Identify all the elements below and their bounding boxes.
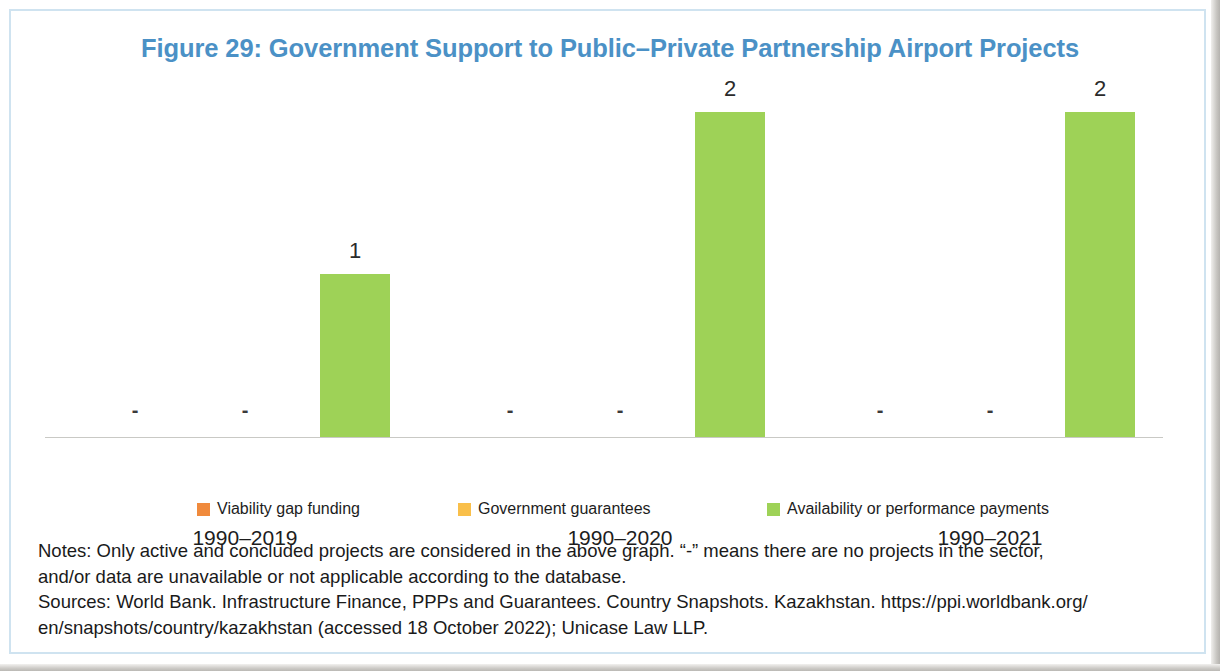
legend-label: Government guarantees xyxy=(478,500,651,518)
no-data-marker: - xyxy=(617,400,624,420)
legend-swatch-icon xyxy=(767,503,780,516)
notes-line-1: Notes: Only active and concluded project… xyxy=(38,538,1178,564)
bar-value-label: 2 xyxy=(724,78,736,100)
legend-swatch-icon xyxy=(197,503,210,516)
bar xyxy=(1065,112,1135,438)
bar-slot-availability-or-performance-payments: 2 xyxy=(695,78,765,438)
bar-group-1990-2019: - - 1 1990–2019 xyxy=(80,78,410,438)
no-data-marker: - xyxy=(507,400,514,420)
x-axis-line xyxy=(45,437,1163,438)
chart-legend: Viability gap funding Government guarant… xyxy=(45,500,1165,526)
bar-slot-government-guarantees: - xyxy=(955,78,1025,438)
no-data-marker: - xyxy=(132,400,139,420)
bar-slot-government-guarantees: - xyxy=(210,78,280,438)
legend-label: Viability gap funding xyxy=(217,500,360,518)
no-data-marker: - xyxy=(242,400,249,420)
sources-line-2: en/snapshots/country/kazakhstan (accesse… xyxy=(38,615,1178,641)
bar-group-1990-2021: - - 2 1990–2021 xyxy=(825,78,1155,438)
legend-label: Availability or performance payments xyxy=(787,500,1049,518)
legend-item-availability-or-performance-payments: Availability or performance payments xyxy=(767,500,1049,518)
page-edge-right xyxy=(1211,0,1220,671)
legend-item-viability-gap-funding: Viability gap funding xyxy=(197,500,360,518)
bar-slot-viability-gap-funding: - xyxy=(845,78,915,438)
bar-slot-viability-gap-funding: - xyxy=(475,78,545,438)
notes-line-2: and/or data are unavailable or not appli… xyxy=(38,564,1178,590)
bar-value-label: 2 xyxy=(1094,78,1106,100)
bar-value-label: 1 xyxy=(349,240,361,262)
no-data-marker: - xyxy=(987,400,994,420)
page-title: Figure 29: Government Support to Public–… xyxy=(0,34,1220,63)
bar-group-1990-2020: - - 2 1990–2020 xyxy=(455,78,785,438)
bar xyxy=(320,274,390,438)
bar-slot-viability-gap-funding: - xyxy=(100,78,170,438)
bar-slot-availability-or-performance-payments: 2 xyxy=(1065,78,1135,438)
legend-swatch-icon xyxy=(458,503,471,516)
bar xyxy=(695,112,765,438)
bar-slot-government-guarantees: - xyxy=(585,78,655,438)
chart-plot-area: - - 1 1990–2019 - - xyxy=(45,78,1163,438)
page-edge-bottom xyxy=(0,664,1220,671)
no-data-marker: - xyxy=(877,400,884,420)
legend-item-government-guarantees: Government guarantees xyxy=(458,500,651,518)
figure-notes: Notes: Only active and concluded project… xyxy=(38,538,1178,640)
sources-line-1: Sources: World Bank. Infrastructure Fina… xyxy=(38,589,1178,615)
bar-slot-availability-or-performance-payments: 1 xyxy=(320,78,390,438)
page: Figure 29: Government Support to Public–… xyxy=(0,0,1220,671)
